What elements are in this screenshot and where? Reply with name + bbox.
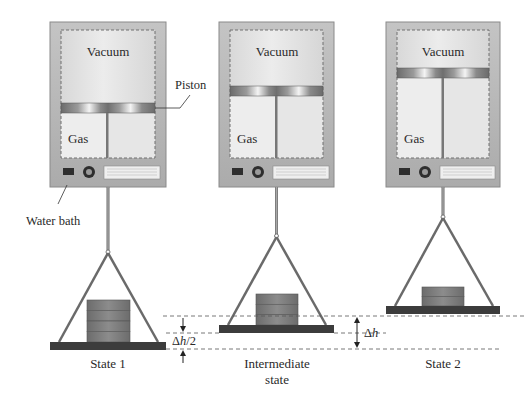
half-suffix: /2 xyxy=(186,334,196,348)
vacuum-label: Vacuum xyxy=(256,44,299,59)
display-panel xyxy=(104,166,160,179)
weight-stack xyxy=(256,294,298,325)
hanging-rod xyxy=(275,187,278,234)
dimension-guides: Δh/2 Δh xyxy=(163,316,524,363)
apparatus-intermediate: Vacuum Gas Intermediate state xyxy=(219,22,334,387)
apparatus-state2: Vacuum Gas State 2 xyxy=(386,22,500,371)
state-label: State 2 xyxy=(425,356,461,371)
piston xyxy=(397,68,489,78)
weight-stack xyxy=(422,287,464,306)
weight-pan xyxy=(386,306,500,314)
delta-h-label: Δh xyxy=(364,326,378,340)
control-knob-center xyxy=(422,169,428,175)
piston-rod xyxy=(106,113,109,158)
piston xyxy=(230,86,323,96)
weight-pan xyxy=(50,342,166,350)
hanging-rod xyxy=(107,187,110,250)
indicator-light xyxy=(63,168,74,175)
gas-label: Gas xyxy=(404,131,424,146)
state-label: State 1 xyxy=(90,356,126,371)
piston-callout-label: Piston xyxy=(175,78,207,92)
display-panel xyxy=(273,166,329,179)
control-knob-center xyxy=(86,169,92,175)
full-delta-arrow xyxy=(354,317,360,348)
indicator-light xyxy=(232,168,243,175)
vacuum-chamber xyxy=(61,30,155,103)
h-variable: h xyxy=(372,326,378,340)
vacuum-label: Vacuum xyxy=(422,44,465,59)
state-label-line2: state xyxy=(265,372,289,387)
piston xyxy=(61,103,155,113)
state-label: Intermediate xyxy=(244,356,310,371)
gas-label: Gas xyxy=(237,131,257,146)
control-knob-center xyxy=(255,169,261,175)
gas-chamber-left xyxy=(230,96,275,158)
water-bath-callout-label: Water bath xyxy=(26,214,81,228)
diagram-canvas: Vacuum Gas State 1 Piston Water bath xyxy=(0,0,524,396)
water-bath-callout: Water bath xyxy=(26,185,81,228)
apparatus-state1: Vacuum Gas State 1 xyxy=(50,22,166,371)
delta-symbol: Δ xyxy=(364,326,372,340)
delta-symbol: Δ xyxy=(172,334,180,348)
gas-label: Gas xyxy=(68,131,88,146)
hanging-rod xyxy=(442,187,445,215)
vacuum-label: Vacuum xyxy=(87,44,130,59)
piston-rod xyxy=(442,78,445,158)
indicator-light xyxy=(399,168,410,175)
piston-rod xyxy=(275,96,278,158)
weight-pan xyxy=(219,325,334,333)
weight-stack xyxy=(87,300,130,342)
display-panel xyxy=(440,166,495,179)
half-delta-h-label: Δh/2 xyxy=(172,334,196,348)
gas-chamber-left xyxy=(397,78,442,158)
